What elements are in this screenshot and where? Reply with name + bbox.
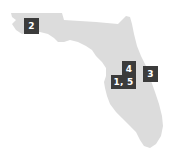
- map-marker-3[interactable]: 3: [143, 66, 158, 82]
- map-marker-4[interactable]: 4: [122, 61, 136, 76]
- map-marker-1-5[interactable]: 1, 5: [111, 75, 136, 89]
- map-marker-2[interactable]: 2: [24, 18, 39, 34]
